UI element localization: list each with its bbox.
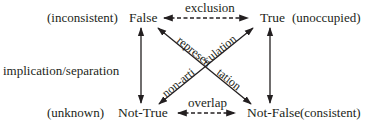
inconsistent-annotation: (inconsistent) bbox=[47, 11, 118, 24]
exclusion-label: exclusion bbox=[185, 1, 235, 14]
unoccupied-annotation: (unoccupied) bbox=[292, 11, 361, 24]
unknown-annotation: (unknown) bbox=[47, 106, 104, 119]
implication-separation-label: implication/separation bbox=[3, 64, 119, 77]
node-not-true: Not-True bbox=[118, 106, 168, 120]
square-of-opposition-diagram: represen tation non-arti culation exclus… bbox=[0, 0, 367, 137]
node-not-false: Not-False bbox=[247, 106, 300, 120]
node-false: False bbox=[129, 11, 158, 25]
overlap-label: overlap bbox=[188, 96, 227, 109]
representation-label-part2: tation bbox=[214, 65, 244, 93]
consistent-annotation: (consistent) bbox=[300, 106, 361, 119]
node-true: True bbox=[260, 11, 285, 25]
non-articulation-label-part2: culation bbox=[200, 32, 239, 67]
